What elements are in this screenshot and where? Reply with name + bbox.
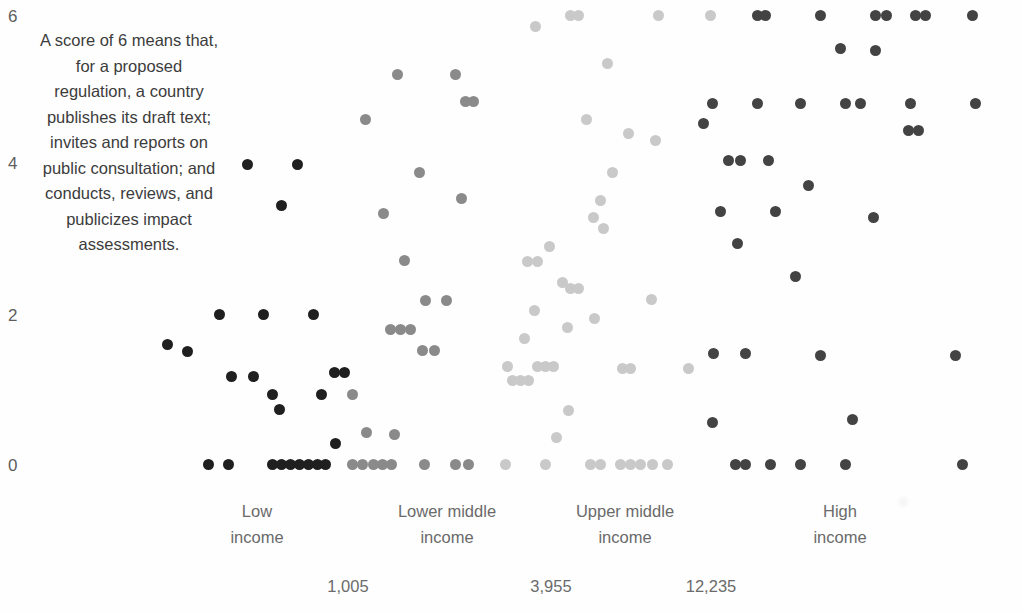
data-point bbox=[770, 206, 781, 217]
data-point bbox=[519, 333, 530, 344]
data-point bbox=[573, 10, 584, 21]
data-point bbox=[405, 324, 416, 335]
x-axis-category-upper-middle-income-line2: income bbox=[515, 524, 735, 550]
data-point bbox=[203, 459, 214, 470]
scatter-plot-canvas: 6 4 2 0 A score of 6 means that, for a p… bbox=[0, 0, 1022, 613]
data-point bbox=[523, 375, 534, 386]
data-point bbox=[723, 155, 734, 166]
data-point bbox=[347, 389, 358, 400]
data-point bbox=[347, 459, 358, 470]
data-point bbox=[276, 200, 287, 211]
data-point bbox=[399, 255, 410, 266]
data-point bbox=[529, 305, 540, 316]
data-point bbox=[903, 125, 914, 136]
data-point bbox=[544, 241, 555, 252]
data-point bbox=[740, 459, 751, 470]
data-point bbox=[752, 98, 763, 109]
data-point bbox=[581, 114, 592, 125]
data-point bbox=[548, 361, 559, 372]
data-point bbox=[182, 346, 193, 357]
data-point bbox=[683, 363, 694, 374]
x-axis-category-high-income-line2: income bbox=[730, 524, 950, 550]
data-point bbox=[414, 167, 425, 178]
data-point bbox=[715, 206, 726, 217]
data-point bbox=[847, 414, 858, 425]
x-axis-gni-tick-12235: 12,235 bbox=[631, 577, 791, 596]
data-point bbox=[760, 10, 771, 21]
data-point bbox=[320, 459, 331, 470]
data-point bbox=[730, 459, 741, 470]
data-point bbox=[647, 459, 658, 470]
data-point bbox=[707, 98, 718, 109]
data-point bbox=[653, 10, 664, 21]
data-point bbox=[607, 167, 618, 178]
data-point bbox=[585, 459, 596, 470]
data-point bbox=[595, 459, 606, 470]
x-axis-category-low-income-line1: Low bbox=[147, 498, 367, 524]
x-axis-category-upper-middle-income-line1: Upper middle bbox=[515, 498, 735, 524]
data-point bbox=[595, 195, 606, 206]
data-point bbox=[881, 10, 892, 21]
data-point bbox=[329, 367, 340, 378]
data-point bbox=[274, 404, 285, 415]
data-point bbox=[214, 309, 225, 320]
data-point bbox=[615, 459, 626, 470]
data-point bbox=[551, 432, 562, 443]
data-point bbox=[389, 429, 400, 440]
data-point bbox=[450, 69, 461, 80]
data-point bbox=[790, 271, 801, 282]
data-point bbox=[763, 155, 774, 166]
data-point bbox=[870, 45, 881, 56]
y-axis-tick-0: 0 bbox=[8, 457, 17, 474]
data-point bbox=[502, 361, 513, 372]
data-point bbox=[708, 348, 719, 359]
data-point bbox=[385, 324, 396, 335]
data-point bbox=[705, 10, 716, 21]
data-point bbox=[650, 135, 661, 146]
x-axis-category-upper-middle-income: Upper middle income bbox=[515, 498, 735, 550]
data-point bbox=[698, 118, 709, 129]
data-point bbox=[835, 43, 846, 54]
data-point bbox=[386, 459, 397, 470]
data-point bbox=[815, 10, 826, 21]
x-axis-gni-tick-3955: 3,955 bbox=[471, 577, 631, 596]
x-axis-category-high-income: High income bbox=[730, 498, 950, 550]
data-point bbox=[588, 212, 599, 223]
data-point bbox=[417, 345, 428, 356]
data-point bbox=[308, 309, 319, 320]
data-point bbox=[392, 69, 403, 80]
data-point bbox=[360, 114, 371, 125]
data-point bbox=[598, 223, 609, 234]
data-point bbox=[500, 459, 511, 470]
background-artifact bbox=[896, 494, 910, 510]
x-axis-category-low-income: Low income bbox=[147, 498, 367, 550]
y-axis-tick-2: 2 bbox=[8, 307, 17, 324]
data-point bbox=[855, 98, 866, 109]
data-point bbox=[602, 58, 613, 69]
data-point bbox=[646, 294, 657, 305]
data-point bbox=[468, 96, 479, 107]
data-point bbox=[970, 98, 981, 109]
data-point bbox=[562, 322, 573, 333]
data-point bbox=[910, 10, 921, 21]
data-point bbox=[532, 256, 543, 267]
data-point bbox=[707, 417, 718, 428]
annotation-text: A score of 6 means that, for a proposed … bbox=[40, 28, 218, 258]
data-point bbox=[623, 128, 634, 139]
data-point bbox=[840, 98, 851, 109]
data-point bbox=[732, 238, 743, 249]
data-point bbox=[815, 350, 826, 361]
data-point bbox=[463, 459, 474, 470]
data-point bbox=[967, 10, 978, 21]
x-axis-gni-tick-1005: 1,005 bbox=[268, 577, 428, 596]
data-point bbox=[530, 21, 541, 32]
data-point bbox=[795, 98, 806, 109]
y-axis-tick-4: 4 bbox=[8, 155, 17, 172]
data-point bbox=[357, 459, 368, 470]
data-point bbox=[840, 459, 851, 470]
data-point bbox=[635, 459, 646, 470]
data-point bbox=[625, 363, 636, 374]
data-point bbox=[330, 438, 341, 449]
data-point bbox=[420, 295, 431, 306]
data-point bbox=[339, 367, 350, 378]
